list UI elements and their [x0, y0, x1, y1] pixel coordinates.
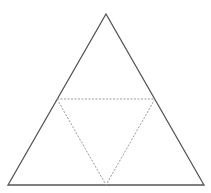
triangle-diagram	[0, 0, 211, 193]
medial-triangle-dashed	[57, 99, 155, 185]
